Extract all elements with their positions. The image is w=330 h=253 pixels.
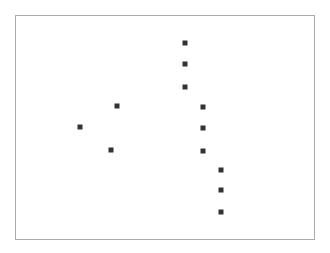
data-point-marker <box>183 85 188 90</box>
data-point-marker <box>219 168 224 173</box>
data-point-marker <box>115 104 120 109</box>
data-point-marker <box>219 210 224 215</box>
data-point-marker <box>183 41 188 46</box>
data-point-marker <box>183 62 188 67</box>
data-point-marker <box>78 125 83 130</box>
scatter-plot <box>0 0 330 253</box>
data-point-marker <box>109 148 114 153</box>
data-point-marker <box>219 188 224 193</box>
data-point-marker <box>201 105 206 110</box>
data-point-marker <box>201 126 206 131</box>
marker-group <box>78 41 224 215</box>
data-point-marker <box>201 149 206 154</box>
